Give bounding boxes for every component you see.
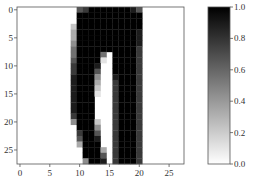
pixel [130,24,136,30]
pixel [89,46,95,52]
pixel [118,130,124,136]
colorbar-tick-label: 0.0 [234,159,246,169]
pixel [89,119,95,125]
pixel [124,35,130,41]
pixel [101,41,107,47]
pixel [124,80,130,86]
pixel [136,130,142,136]
pixel [77,108,83,114]
pixel [136,136,142,142]
pixel [71,69,77,75]
pixel [118,80,124,86]
pixel [118,102,124,108]
pixel [136,18,142,24]
pixel [136,69,142,75]
pixel [130,147,136,153]
pixel [83,52,89,58]
pixel [89,153,95,159]
pixel [77,102,83,108]
colorbar-tick-label: 0.6 [234,65,246,75]
colorbar-tick-label: 0.8 [234,33,246,43]
pixel [83,91,89,97]
pixel [118,63,124,69]
pixel [136,91,142,97]
pixel [130,114,136,120]
pixel [130,130,136,136]
pixel [89,97,95,103]
pixel [101,147,107,153]
pixel [136,125,142,131]
pixel [71,114,77,120]
pixel [95,69,101,75]
pixel [95,52,101,58]
pixel [89,108,95,114]
pixel [83,35,89,41]
pixel [118,147,124,153]
pixel [83,63,89,69]
pixel [71,80,77,86]
pixel [124,119,130,125]
pixel [83,125,89,131]
pixel [130,63,136,69]
pixel [106,35,112,41]
pixel [71,108,77,114]
pixel [83,158,89,164]
pixel [112,7,118,13]
pixel [130,142,136,148]
pixel [95,29,101,35]
pixel [124,52,130,58]
pixel [83,97,89,103]
pixel [118,91,124,97]
pixel [118,125,124,131]
pixel [118,86,124,92]
pixel [136,114,142,120]
pixel [130,102,136,108]
pixel [136,74,142,80]
pixel [77,41,83,47]
pixel [95,125,101,131]
pixel [112,80,118,86]
pixel [136,119,142,125]
pixel [136,46,142,52]
pixel [118,46,124,52]
pixel [77,7,83,13]
pixel [101,46,107,52]
pixel [95,35,101,41]
pixel [130,41,136,47]
pixel [89,35,95,41]
pixel [71,52,77,58]
pixel [106,7,112,13]
pixel [112,147,118,153]
pixel [130,7,136,13]
pixel [83,7,89,13]
pixel [118,7,124,13]
pixel [136,86,142,92]
x-tick-label: 0 [18,168,23,178]
pixel [71,91,77,97]
pixel [106,41,112,47]
pixel [101,24,107,30]
pixel [77,74,83,80]
pixel [124,108,130,114]
pixel [89,91,95,97]
pixel [89,142,95,148]
pixel [124,97,130,103]
pixel [83,74,89,80]
pixel [77,97,83,103]
pixel [118,74,124,80]
pixel [83,102,89,108]
pixel [101,13,107,19]
pixel [95,24,101,30]
pixel [124,57,130,63]
pixel [112,29,118,35]
pixel [95,119,101,125]
pixel [95,63,101,69]
pixel [95,158,101,164]
pixel [83,57,89,63]
pixel [77,91,83,97]
pixel [95,46,101,52]
pixel [77,80,83,86]
pixel [89,41,95,47]
pixel [101,18,107,24]
pixel [118,35,124,41]
